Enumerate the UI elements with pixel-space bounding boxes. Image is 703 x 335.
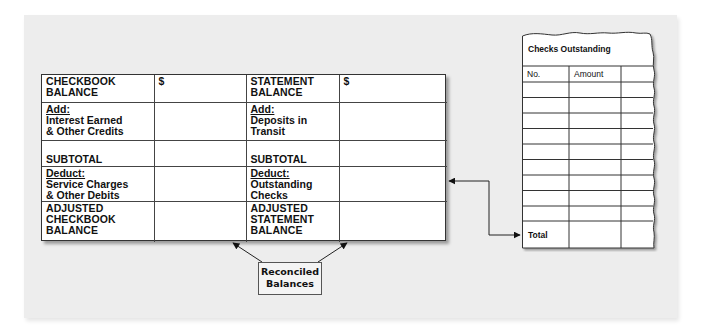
reconciled-arrow-left	[233, 243, 262, 262]
connector-arrows	[0, 0, 703, 335]
reconciled-balances-callout: Reconciled Balances	[258, 262, 322, 295]
outstanding-checks-arrow	[449, 181, 520, 235]
reconciled-arrow-right	[318, 243, 347, 262]
